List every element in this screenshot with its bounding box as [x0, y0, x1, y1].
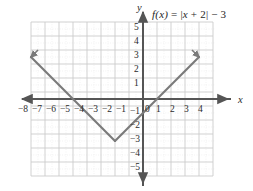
- x-tick-label: −8: [18, 105, 28, 115]
- curve-arrow-left: [31, 50, 39, 58]
- y-tick-label: −5: [130, 163, 140, 173]
- y-tick-label: −3: [130, 135, 140, 145]
- x-tick-label: −1: [116, 105, 126, 115]
- function-expression-rest: + 2| − 3: [188, 8, 226, 20]
- x-tick-label: −7: [32, 105, 42, 115]
- x-tick-label: 3: [184, 105, 189, 115]
- y-axis-label: y: [137, 3, 142, 14]
- y-tick-label: −2: [130, 121, 140, 131]
- origin-label: 0: [145, 105, 150, 115]
- y-tick-label: −1: [130, 107, 140, 117]
- x-tick-label: −5: [60, 105, 70, 115]
- x-tick-label: −2: [102, 105, 112, 115]
- y-tick-label: 4: [134, 37, 139, 47]
- y-tick-label: 3: [134, 51, 139, 61]
- x-axis-label: x: [238, 95, 243, 106]
- y-tick-label: −4: [130, 149, 140, 159]
- curve-arrow-right: [192, 50, 200, 58]
- plot-canvas: [0, 0, 253, 191]
- x-tick-label: −4: [74, 105, 84, 115]
- graph-figure: f(x) = |x + 2| − 3 x y −8−7−6−5−4−3−2−11…: [0, 0, 253, 191]
- x-tick-label: 4: [198, 105, 203, 115]
- y-tick-label: 5: [134, 23, 139, 33]
- function-variable: (x): [155, 8, 168, 20]
- x-tick-label: −6: [46, 105, 56, 115]
- function-equals: = |: [168, 8, 183, 20]
- y-tick-label: 1: [134, 79, 139, 89]
- x-tick-label: 1: [156, 105, 161, 115]
- x-tick-label: 2: [170, 105, 175, 115]
- y-tick-label: 2: [134, 65, 139, 75]
- x-tick-label: −3: [88, 105, 98, 115]
- function-equation-label: f(x) = |x + 2| − 3: [152, 8, 226, 20]
